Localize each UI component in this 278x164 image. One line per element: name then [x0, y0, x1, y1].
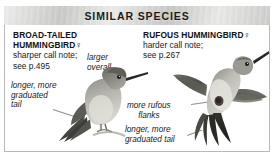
panel-title: SIMILAR SPECIES: [84, 10, 189, 22]
left-note-line1: sharper call note;: [13, 50, 133, 60]
left-species-name-text: HUMMINGBIRD: [13, 40, 75, 50]
female-symbol-icon: ♀: [244, 30, 251, 40]
similar-species-panel: SIMILAR SPECIES BROAD-TAILED HUMMINGBIRD…: [0, 0, 278, 164]
right-bird-illustration: [173, 43, 270, 151]
left-species-name-line2: HUMMINGBIRD♀: [13, 40, 133, 50]
panel-body: BROAD-TAILED HUMMINGBIRD♀ sharper call n…: [4, 25, 270, 152]
left-bird-illustration: [57, 63, 149, 149]
right-species-name-text: RUFOUS HUMMINGBIRD: [143, 30, 244, 40]
left-species-name-line1: BROAD-TAILED: [13, 30, 133, 40]
annotation-left-tail: longer, more graduated tail: [11, 81, 57, 110]
right-species-name: RUFOUS HUMMINGBIRD♀: [143, 30, 267, 40]
panel-header: SIMILAR SPECIES: [4, 6, 270, 25]
female-symbol-icon: ♀: [75, 40, 82, 50]
